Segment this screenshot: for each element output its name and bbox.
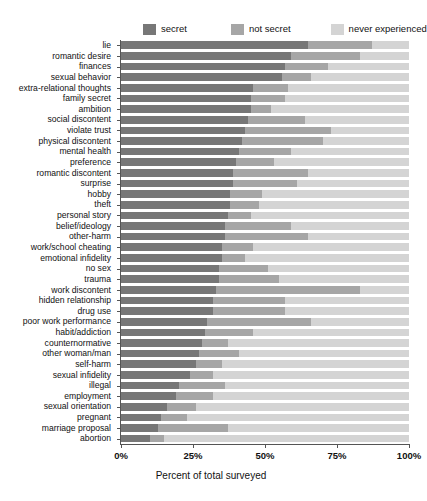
y-tick-label: family secret	[63, 95, 111, 103]
bar-row	[121, 169, 409, 177]
y-tick-mark	[117, 67, 121, 68]
bar-row	[121, 350, 409, 358]
bar-row	[121, 318, 409, 326]
y-tick-label: emotional infidelity	[40, 254, 111, 262]
bar-segment-secret	[121, 148, 239, 156]
bar-segment-secret	[121, 318, 207, 326]
x-tick-mark	[121, 444, 122, 448]
y-tick-label: work discontent	[51, 286, 111, 294]
y-tick-mark	[117, 98, 121, 99]
bar-row	[121, 275, 409, 283]
bar-segment-never-experienced	[245, 254, 409, 262]
bar-segment-never-experienced	[297, 180, 409, 188]
bar-segment-not-secret	[161, 414, 187, 422]
bar-segment-secret	[121, 95, 251, 103]
bar-segment-not-secret	[225, 222, 291, 230]
y-tick-label: finances	[79, 63, 111, 71]
y-tick-mark	[117, 386, 121, 387]
y-tick-label: employment	[64, 392, 111, 400]
bar-row	[121, 339, 409, 347]
x-tick-label: 50%	[255, 450, 274, 461]
bar-segment-never-experienced	[323, 137, 409, 145]
bar-segment-never-experienced	[274, 158, 409, 166]
bar-segment-secret	[121, 169, 233, 177]
bar-segment-never-experienced	[331, 127, 409, 135]
bar-segment-not-secret	[251, 105, 271, 113]
bar-segment-not-secret	[285, 63, 328, 71]
bar-segment-never-experienced	[251, 212, 409, 220]
y-tick-mark	[117, 407, 121, 408]
y-tick-label: lie	[102, 41, 111, 49]
bar-segment-not-secret	[167, 403, 196, 411]
bar-segment-secret	[121, 360, 196, 368]
bar-row	[121, 403, 409, 411]
y-tick-label: work/school cheating	[31, 243, 111, 251]
y-tick-mark	[117, 343, 121, 344]
y-tick-mark	[117, 269, 121, 270]
bar-segment-secret	[121, 233, 225, 241]
y-tick-label: theft	[94, 201, 111, 209]
bar-segment-not-secret	[150, 435, 164, 443]
y-tick-label: trauma	[84, 275, 111, 283]
y-tick-label: pregnant	[77, 414, 111, 422]
y-tick-mark	[117, 247, 121, 248]
bar-segment-never-experienced	[279, 275, 409, 283]
bar-row	[121, 127, 409, 135]
y-tick-mark	[117, 141, 121, 142]
bar-segment-never-experienced	[328, 63, 409, 71]
bar-row	[121, 382, 409, 390]
y-tick-label: social discontent	[47, 116, 111, 124]
y-tick-mark	[117, 205, 121, 206]
bar-segment-not-secret	[199, 350, 239, 358]
bar-segment-not-secret	[233, 180, 296, 188]
bar-segment-never-experienced	[225, 382, 409, 390]
bar-segment-secret	[121, 158, 236, 166]
bar-segment-secret	[121, 201, 230, 209]
bar-segment-not-secret	[308, 41, 371, 49]
bar-row	[121, 116, 409, 124]
y-tick-label: poor work performance	[23, 318, 111, 326]
bar-row	[121, 84, 409, 92]
y-tick-mark	[117, 364, 121, 365]
bar-segment-secret	[121, 329, 205, 337]
bar-segment-not-secret	[179, 382, 225, 390]
bar-segment-secret	[121, 403, 167, 411]
bar-segment-secret	[121, 350, 199, 358]
bar-segment-not-secret	[216, 286, 360, 294]
y-tick-label: sexual behavior	[51, 73, 111, 81]
y-tick-mark	[117, 332, 121, 333]
bar-segment-secret	[121, 116, 248, 124]
bar-segment-not-secret	[176, 392, 213, 400]
bar-row	[121, 371, 409, 379]
bar-segment-secret	[121, 286, 216, 294]
bar-segment-secret	[121, 297, 213, 305]
bar-segment-secret	[121, 73, 282, 81]
y-tick-mark	[117, 428, 121, 429]
bar-row	[121, 233, 409, 241]
y-tick-label: physical discontent	[38, 137, 111, 145]
bar-segment-never-experienced	[228, 339, 409, 347]
legend-label-secret: secret	[161, 24, 187, 34]
bar-segment-never-experienced	[213, 371, 409, 379]
bar-segment-not-secret	[213, 307, 285, 315]
y-tick-mark	[117, 194, 121, 195]
bar-segment-not-secret	[202, 339, 228, 347]
bar-segment-not-secret	[245, 127, 331, 135]
y-tick-label: drug use	[78, 307, 111, 315]
bar-segment-not-secret	[219, 275, 279, 283]
y-tick-mark	[117, 215, 121, 216]
y-tick-label: no sex	[86, 265, 111, 273]
bar-segment-not-secret	[196, 360, 222, 368]
bar-segment-not-secret	[228, 212, 251, 220]
y-tick-mark	[117, 45, 121, 46]
bar-segment-secret	[121, 243, 222, 251]
x-tick-mark	[265, 444, 266, 448]
bar-segment-not-secret	[242, 137, 323, 145]
y-tick-mark	[117, 120, 121, 121]
bar-segment-not-secret	[190, 371, 213, 379]
y-tick-label: ambition	[79, 105, 111, 113]
y-tick-mark	[117, 226, 121, 227]
bar-segment-never-experienced	[262, 190, 409, 198]
bar-segment-not-secret	[158, 424, 227, 432]
bar-segment-secret	[121, 180, 233, 188]
